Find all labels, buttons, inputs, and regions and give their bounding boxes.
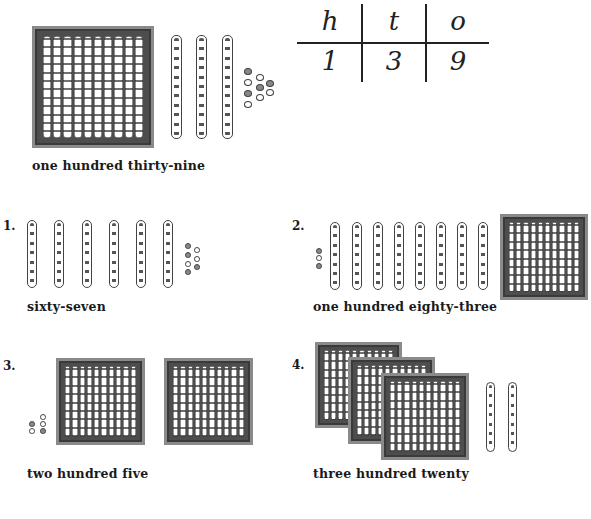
hundred-flat xyxy=(381,373,469,460)
hundred-flat xyxy=(32,26,154,148)
ten-rod xyxy=(222,35,233,139)
ten-rod xyxy=(171,35,182,139)
value-tens: 3 xyxy=(364,46,424,76)
exercise-label: two hundred five xyxy=(27,466,148,481)
ten-rod xyxy=(330,222,340,290)
ten-rod xyxy=(436,222,446,290)
ten-rod xyxy=(394,222,404,290)
ten-rod xyxy=(136,220,146,288)
ten-rod xyxy=(373,222,383,290)
ten-rod xyxy=(457,222,467,290)
value-ones: 9 xyxy=(428,46,488,76)
value-hundreds: 1 xyxy=(300,46,360,76)
ten-rod xyxy=(27,220,37,288)
ten-rod xyxy=(352,222,362,290)
ten-rod xyxy=(508,382,517,452)
example-label: one hundred thirty-nine xyxy=(32,158,205,173)
exercise-label: three hundred twenty xyxy=(313,466,469,481)
ten-rod xyxy=(82,220,92,288)
header-tens: t xyxy=(364,6,424,36)
ten-rod xyxy=(109,220,119,288)
ten-rod xyxy=(415,222,425,290)
exercise-number: 4. xyxy=(292,358,305,372)
hundred-flat xyxy=(500,214,588,300)
header-ones: o xyxy=(428,6,488,36)
exercise-number: 2. xyxy=(292,219,305,233)
ten-rod xyxy=(486,382,495,452)
ten-rod xyxy=(196,35,207,139)
exercise-number: 1. xyxy=(3,219,16,233)
exercise-label: one hundred eighty-three xyxy=(313,299,497,314)
ten-rod xyxy=(478,222,488,290)
ten-rod xyxy=(54,220,64,288)
header-hundreds: h xyxy=(300,6,360,36)
hundred-flat xyxy=(56,358,145,445)
exercise-label: sixty-seven xyxy=(27,299,106,314)
ten-rod xyxy=(163,220,173,288)
exercise-number: 3. xyxy=(3,359,16,373)
hundred-flat xyxy=(164,358,253,445)
